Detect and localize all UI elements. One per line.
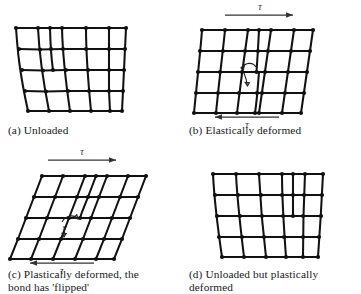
dislocation-marker-icon	[241, 63, 256, 86]
shear-arrow-top-b: τ	[207, 3, 317, 21]
lattice-figure-b	[189, 20, 321, 120]
lattice-figure-a	[8, 18, 138, 118]
panel-c: τ	[0, 146, 181, 292]
arrow-right-icon	[48, 157, 116, 163]
panel-b: τ	[181, 0, 361, 146]
caption-a: (a) Unloaded	[8, 124, 178, 137]
tau-label-top-b: τ	[258, 1, 262, 12]
lattice-bonds-d	[213, 174, 323, 257]
lattice-figure-d	[205, 164, 335, 264]
panel-a: (a) Unloaded	[0, 0, 181, 146]
lattice-figure-c	[6, 166, 156, 268]
caption-b: (b) Elastically deformed	[189, 124, 361, 137]
panel-d: (d) Unloaded but plastically deformed	[181, 146, 361, 292]
shear-arrow-top-c: τ	[26, 148, 136, 166]
lattice-bonds-b	[194, 30, 313, 113]
tau-label-top-c: τ	[80, 146, 84, 157]
arrow-right-icon	[225, 12, 293, 18]
caption-c: (c) Plastically deformed, the bond has '…	[8, 268, 176, 294]
caption-d: (d) Unloaded but plastically deformed	[189, 268, 361, 294]
